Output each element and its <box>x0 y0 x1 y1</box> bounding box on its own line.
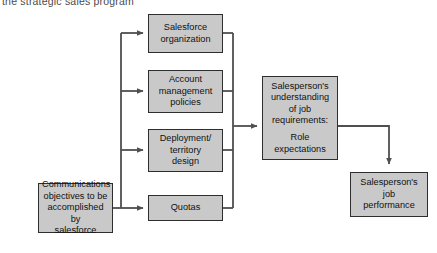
node-account-management-policies[interactable]: Account management policies <box>148 70 223 113</box>
node-deployment-territory-design-line2: territory <box>152 145 219 156</box>
node-account-management-policies-line2: management <box>152 86 219 97</box>
node-communications-objectives[interactable]: Communications objectives to be accompli… <box>38 183 113 233</box>
node-quotas-line1: Quotas <box>152 202 219 213</box>
flowchart-diagram: the strategic sales program <box>0 0 437 253</box>
node-salesforce-organization-line2: organization <box>152 34 219 45</box>
node-role-expectations[interactable]: Salesperson's understanding of job requi… <box>262 76 338 160</box>
node-communications-objectives-line4: salesforce <box>42 225 109 236</box>
node-salesforce-organization[interactable]: Salesforce organization <box>148 14 223 53</box>
node-deployment-territory-design-line3: design <box>152 156 219 167</box>
node-role-expectations-line6: expectations <box>266 144 334 155</box>
node-account-management-policies-line3: policies <box>152 97 219 108</box>
node-job-performance-line3: performance <box>354 200 424 211</box>
node-salesforce-organization-line1: Salesforce <box>152 22 219 33</box>
node-job-performance[interactable]: Salesperson's job performance <box>350 172 428 217</box>
node-role-expectations-line4: requirements: <box>266 115 334 126</box>
node-communications-objectives-line2: objectives to be <box>42 191 109 202</box>
node-communications-objectives-line1: Communications <box>42 179 109 190</box>
node-deployment-territory-design[interactable]: Deployment/ territory design <box>148 129 223 172</box>
node-role-expectations-line3: of job <box>266 104 334 115</box>
node-quotas[interactable]: Quotas <box>148 195 223 221</box>
node-job-performance-line2: job <box>354 189 424 200</box>
node-role-expectations-line5: Role <box>266 132 334 143</box>
node-communications-objectives-line3: accomplished by <box>42 202 109 225</box>
node-job-performance-line1: Salesperson's <box>354 177 424 188</box>
connector-role-expectations-to-job-performance <box>338 126 389 164</box>
node-deployment-territory-design-line1: Deployment/ <box>152 133 219 144</box>
node-role-expectations-line2: understanding <box>266 92 334 103</box>
node-account-management-policies-line1: Account <box>152 74 219 85</box>
node-role-expectations-line1: Salesperson's <box>266 81 334 92</box>
figure-caption: the strategic sales program <box>2 0 134 7</box>
